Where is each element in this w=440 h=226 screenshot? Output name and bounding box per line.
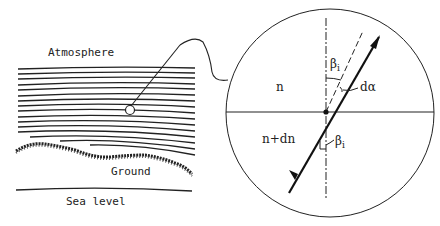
sea-level-label: Sea level bbox=[66, 195, 126, 208]
diagram-graphics bbox=[0, 0, 440, 226]
boundary-point bbox=[323, 109, 328, 114]
atmosphere-layers bbox=[18, 67, 195, 155]
ground-label: Ground bbox=[111, 165, 151, 178]
lower-angle-leader bbox=[326, 140, 334, 145]
deflection-arc bbox=[340, 87, 342, 92]
upper-angle-arc bbox=[326, 78, 341, 80]
arrowhead-top-icon bbox=[370, 35, 380, 49]
ray-in-atmosphere bbox=[131, 45, 180, 106]
lower-angle-label: βi bbox=[335, 134, 345, 150]
inset-circle bbox=[226, 9, 434, 217]
deflection-label: dα bbox=[360, 80, 376, 94]
lower-angle-mark bbox=[320, 141, 326, 149]
lower-medium-label: n+dn bbox=[262, 132, 295, 146]
sea-level-line bbox=[16, 188, 192, 191]
upper-medium-label: n bbox=[276, 80, 284, 94]
atmosphere-label: Atmosphere bbox=[48, 46, 114, 59]
ground-surface bbox=[16, 144, 192, 176]
refraction-diagram: Atmosphere Ground Sea level n n+dn βi βi… bbox=[0, 0, 440, 226]
observation-point bbox=[126, 106, 135, 115]
upper-angle-label: βi bbox=[330, 57, 340, 73]
connector-line bbox=[180, 39, 228, 80]
